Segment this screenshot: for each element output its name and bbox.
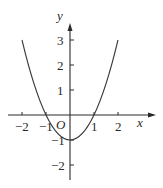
parabola-graph: y x O −2 −1 1 2 3 2 1 −1 −2	[0, 0, 163, 188]
y-tick-label: 3	[57, 33, 64, 48]
x-tick-label: 1	[91, 119, 98, 134]
x-axis-label: x	[136, 115, 143, 130]
y-axis-label: y	[55, 8, 63, 23]
x-tick-label: −1	[39, 119, 53, 134]
origin-label: O	[56, 117, 66, 132]
y-axis-arrow-icon	[68, 23, 73, 31]
y-tick-label: −1	[51, 133, 65, 148]
y-ticks	[70, 40, 74, 165]
y-tick-label: 2	[57, 58, 64, 73]
x-tick-label: 2	[115, 119, 122, 134]
y-tick-label: −2	[51, 158, 65, 173]
x-tick-label: −2	[15, 119, 29, 134]
y-tick-label: 1	[57, 83, 64, 98]
x-axis-arrow-icon	[148, 113, 156, 118]
